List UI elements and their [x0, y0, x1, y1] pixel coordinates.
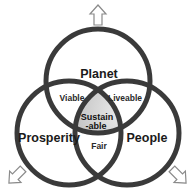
label-sustainable-line2: -able — [85, 121, 106, 131]
label-liveable: Liveable — [108, 93, 142, 103]
label-fair: Fair — [91, 141, 107, 151]
arrow-up-icon — [90, 5, 106, 25]
label-prosperity: Prosperity — [18, 131, 80, 145]
arrow-down-left-icon — [3, 163, 28, 188]
label-people: People — [127, 131, 168, 145]
venn-diagram: Planet Prosperity People Viable Liveable… — [0, 0, 195, 196]
label-planet: Planet — [80, 67, 118, 81]
label-viable: Viable — [60, 93, 85, 103]
arrow-down-right-icon — [166, 163, 191, 188]
